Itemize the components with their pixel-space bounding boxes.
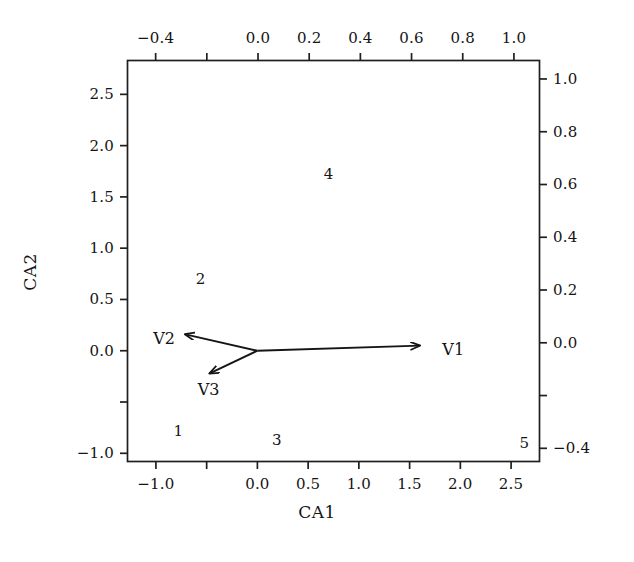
tick-label-right-0: −0.4 bbox=[553, 439, 590, 457]
biplot-vector-v2 bbox=[185, 334, 257, 350]
tick-label-right-4: 0.4 bbox=[553, 228, 577, 246]
tick-label-top-0: −0.4 bbox=[137, 29, 174, 47]
tick-label-bottom-4: 1.0 bbox=[347, 475, 371, 493]
tick-label-left-0: −1.0 bbox=[77, 444, 114, 462]
tick-label-top-3: 0.2 bbox=[297, 29, 321, 47]
tick-label-top-6: 0.8 bbox=[450, 29, 474, 47]
tick-label-bottom-3: 0.5 bbox=[296, 475, 320, 493]
correspondence-analysis-biplot: CA1 CA2 −1.00.00.51.01.52.02.5−0.40.00.2… bbox=[0, 0, 634, 562]
y-axis-title: CA2 bbox=[20, 253, 40, 290]
biplot-vector-v3 bbox=[210, 351, 258, 374]
data-point-label: 5 bbox=[519, 434, 529, 452]
right-axis-ticks bbox=[540, 79, 548, 448]
vector-label-v3: V3 bbox=[198, 379, 220, 398]
data-point-label: 2 bbox=[196, 270, 206, 288]
tick-label-left-4: 1.0 bbox=[90, 239, 114, 257]
tick-label-bottom-2: 0.0 bbox=[245, 475, 269, 493]
tick-label-right-7: 1.0 bbox=[553, 70, 577, 88]
tick-label-top-4: 0.4 bbox=[348, 29, 372, 47]
tick-label-top-5: 0.6 bbox=[399, 29, 423, 47]
vector-label-v1: V1 bbox=[442, 339, 464, 358]
biplot-vector-v1 bbox=[257, 346, 419, 351]
data-point-label: 3 bbox=[272, 431, 282, 449]
left-axis-ticks bbox=[120, 94, 128, 453]
tick-label-left-5: 1.5 bbox=[90, 188, 114, 206]
tick-label-bottom-0: −1.0 bbox=[137, 475, 174, 493]
tick-label-right-5: 0.6 bbox=[553, 175, 577, 193]
data-point-label: 4 bbox=[324, 165, 334, 183]
vector-label-v2: V2 bbox=[153, 329, 175, 348]
tick-label-right-2: 0.0 bbox=[553, 334, 577, 352]
top-axis-ticks bbox=[156, 53, 514, 61]
plot-frame bbox=[128, 61, 540, 462]
tick-label-top-2: 0.0 bbox=[246, 29, 270, 47]
tick-label-right-6: 0.8 bbox=[553, 123, 577, 141]
tick-label-left-6: 2.0 bbox=[90, 137, 114, 155]
x-axis-title: CA1 bbox=[298, 502, 335, 522]
tick-label-bottom-7: 2.5 bbox=[499, 475, 523, 493]
tick-label-right-3: 0.2 bbox=[553, 281, 577, 299]
tick-label-left-2: 0.0 bbox=[90, 342, 114, 360]
bottom-axis-ticks bbox=[156, 462, 511, 470]
tick-label-bottom-5: 1.5 bbox=[397, 475, 421, 493]
tick-label-top-7: 1.0 bbox=[502, 29, 526, 47]
data-point-label: 1 bbox=[173, 422, 183, 440]
tick-label-left-3: 0.5 bbox=[90, 290, 114, 308]
tick-label-bottom-6: 2.0 bbox=[448, 475, 472, 493]
biplot-vectors bbox=[185, 334, 419, 373]
tick-label-left-7: 2.5 bbox=[90, 85, 114, 103]
